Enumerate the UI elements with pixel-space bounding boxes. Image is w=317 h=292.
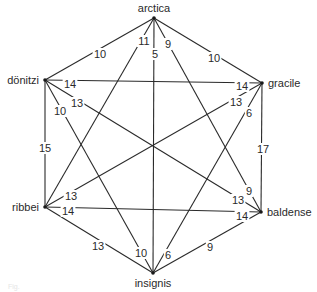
node-label-ribbei: ribbei bbox=[12, 201, 39, 213]
edge-weight-label-end: 13 bbox=[232, 194, 244, 206]
edge-weight-label: 9 bbox=[207, 241, 213, 253]
node-gracile-dot bbox=[260, 81, 264, 85]
edge-weight-label-end: 14 bbox=[236, 210, 248, 222]
edge-weight-label: 6 bbox=[246, 107, 252, 119]
node-arctica-dot bbox=[152, 16, 156, 20]
node-insignis-dot bbox=[151, 271, 155, 275]
node-label-donitzi: dönitzi bbox=[7, 74, 39, 86]
edge-weight-label: 13 bbox=[92, 240, 104, 252]
edge-weight-label: 9 bbox=[165, 38, 171, 50]
edge-weight-label: 13 bbox=[230, 96, 242, 108]
edge-weight-label: 10 bbox=[54, 105, 66, 117]
weighted-graph-diagram: 10101159141413131010151313661714141399 a… bbox=[0, 0, 317, 292]
edge-weight-label-end: 13 bbox=[65, 190, 77, 202]
edge-weight-label: 13 bbox=[71, 97, 83, 109]
edge-weight-label: 14 bbox=[62, 205, 74, 217]
edge-weight-label: 10 bbox=[208, 52, 220, 64]
edge-arctica-gracile bbox=[154, 18, 262, 83]
edge-weight-label-end: 6 bbox=[165, 249, 171, 261]
edge-weight-label: 10 bbox=[94, 48, 106, 60]
edge-weight-label-end: 10 bbox=[135, 247, 147, 259]
node-donitzi-dot bbox=[43, 78, 47, 82]
node-ribbei-dot bbox=[43, 205, 47, 209]
node-label-arctica: arctica bbox=[138, 2, 171, 14]
edge-weight-label: 17 bbox=[257, 143, 269, 155]
node-label-baldense: baldense bbox=[267, 206, 312, 218]
node-label-gracile: gracile bbox=[268, 77, 300, 89]
edge-weight-label: 15 bbox=[39, 142, 51, 154]
node-baldense-dot bbox=[259, 210, 263, 214]
edge-weight-label: 9 bbox=[246, 185, 252, 197]
edge-weight-label: 11 bbox=[138, 35, 149, 47]
edge-weight-label: 14 bbox=[64, 78, 76, 90]
node-label-insignis: insignis bbox=[135, 277, 172, 289]
figure-caption: Fig. bbox=[8, 283, 20, 291]
edge-weight-label: 5 bbox=[152, 48, 158, 60]
edge-weight-label-end: 14 bbox=[236, 80, 248, 92]
